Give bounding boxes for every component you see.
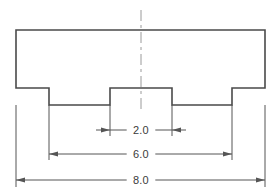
dim-6-0-arrow-right	[223, 151, 232, 156]
dim-6-0-arrow-left	[49, 151, 58, 156]
dimension-texts-group: 2.06.08.0	[133, 124, 149, 186]
dim-2-0-label: 2.0	[133, 124, 149, 136]
drawing-viewport: 2.06.08.0	[0, 0, 280, 196]
dim-6-0-label: 6.0	[133, 148, 149, 160]
dim-8-0-arrow-left	[16, 177, 25, 182]
dim-2-0-arrow-left	[101, 127, 110, 132]
dim-8-0-arrow-right	[256, 177, 265, 182]
dim-2-0-arrow-right	[172, 127, 181, 132]
dim-8-0-label: 8.0	[133, 174, 149, 186]
engineering-drawing-canvas: 2.06.08.0	[0, 0, 280, 196]
